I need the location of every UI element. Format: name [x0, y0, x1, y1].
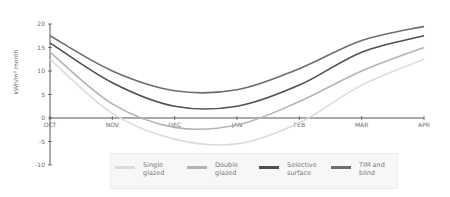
y-tick-label: 5	[41, 91, 45, 98]
x-tick-label: APR	[418, 121, 430, 128]
legend-swatch	[115, 166, 135, 169]
legend-item-tim-and-blind: TIM and blind	[331, 161, 399, 177]
x-tick-label: NOV	[106, 121, 120, 128]
legend-item-single-glazed: Single glazed	[115, 161, 183, 177]
legend-label: TIM and blind	[359, 161, 399, 177]
y-axis-label: kWh/m² month	[12, 49, 19, 94]
legend-swatch	[187, 166, 207, 169]
legend-label: Single glazed	[143, 161, 183, 177]
legend-item-double-glazed: Double glazed	[187, 161, 255, 177]
legend-item-selective-surface: Selective surface	[259, 161, 327, 177]
y-tick-label: 15	[37, 44, 45, 51]
legend-swatch	[259, 166, 279, 169]
series-line	[50, 59, 424, 145]
y-tick-label: 0	[41, 114, 45, 121]
y-tick-label: 10	[37, 67, 45, 74]
legend-label: Selective surface	[287, 161, 327, 177]
y-axis: 20151050-5-10	[35, 20, 52, 168]
y-tick-label: 20	[37, 20, 45, 27]
x-axis: OCTNOVDECJANFEBMARAPR	[44, 116, 430, 129]
y-tick-label: -10	[35, 161, 45, 168]
legend: Single glazed Double glazed Selective su…	[110, 153, 398, 189]
legend-swatch	[331, 166, 351, 169]
x-tick-label: MAR	[355, 121, 368, 128]
x-tick-label: OCT	[44, 121, 57, 128]
series-line	[50, 36, 424, 109]
y-tick-label: -5	[39, 138, 45, 145]
legend-label: Double glazed	[215, 161, 255, 177]
